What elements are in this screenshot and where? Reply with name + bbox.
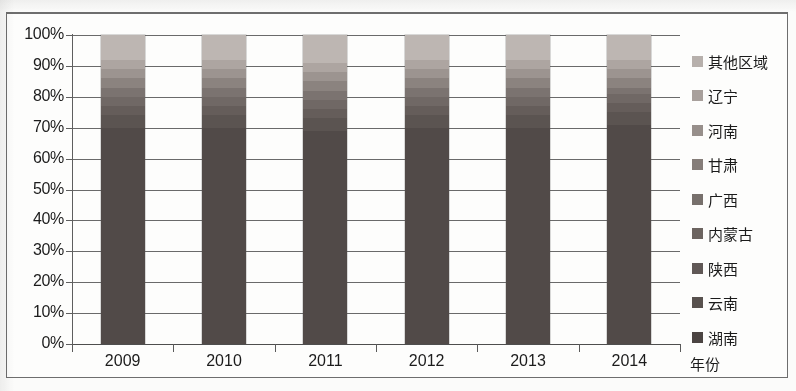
gridline xyxy=(72,128,680,129)
chart-screenshot: 0%10%20%30%40%50%60%70%80%90%100% 年份 其他区… xyxy=(0,0,796,391)
bar-segment xyxy=(202,128,246,344)
bar-segment xyxy=(607,69,651,78)
bar-segment xyxy=(405,97,449,106)
plot-area xyxy=(72,35,680,344)
bar-segment xyxy=(303,72,347,81)
legend-item-label: 陕西 xyxy=(708,258,738,279)
gridline xyxy=(72,282,680,283)
bar-segment xyxy=(607,125,651,344)
x-axis-tick-label: 2010 xyxy=(184,352,264,370)
bar-segment xyxy=(506,35,550,60)
y-axis-tick-label: 20% xyxy=(2,272,64,290)
y-axis-tick xyxy=(66,251,73,252)
y-axis-tick xyxy=(66,190,73,191)
bar-2013 xyxy=(506,35,550,344)
bar-segment xyxy=(303,91,347,100)
bar-segment xyxy=(202,60,246,69)
legend-swatch-icon xyxy=(692,194,703,205)
bar-2014 xyxy=(607,35,651,344)
y-axis-tick-label: 30% xyxy=(2,241,64,259)
x-axis-title: 年份 xyxy=(690,353,720,374)
bar-segment xyxy=(405,78,449,87)
gridline xyxy=(72,66,680,67)
bar-segment xyxy=(506,60,550,69)
bar-segment xyxy=(202,97,246,106)
y-axis-tick xyxy=(66,159,73,160)
bar-segment xyxy=(506,115,550,127)
chart-legend: 其他区域辽宁河南甘肃广西内蒙古陕西云南湖南 xyxy=(692,44,796,355)
legend-swatch-icon xyxy=(692,297,703,308)
bar-segment xyxy=(607,78,651,87)
legend-swatch-icon xyxy=(692,332,703,343)
bar-segment xyxy=(101,78,145,87)
bar-segment xyxy=(101,128,145,344)
bar-segment xyxy=(405,115,449,127)
legend-item-label: 湖南 xyxy=(708,327,738,348)
x-axis-tick xyxy=(477,344,478,352)
legend-item-label: 河南 xyxy=(708,120,738,141)
bar-segment xyxy=(506,106,550,115)
y-axis-tick xyxy=(66,66,73,67)
legend-item: 湖南 xyxy=(692,320,796,355)
legend-swatch-icon xyxy=(692,125,703,136)
y-axis-tick-label: 70% xyxy=(2,118,64,136)
x-axis-tick xyxy=(72,344,73,352)
legend-item: 辽宁 xyxy=(692,79,796,114)
legend-item: 甘肃 xyxy=(692,148,796,183)
legend-item: 内蒙古 xyxy=(692,217,796,252)
bar-segment xyxy=(101,97,145,106)
legend-item-label: 广西 xyxy=(708,189,738,210)
bar-segment xyxy=(405,60,449,69)
y-axis-tick xyxy=(66,313,73,314)
gridline xyxy=(72,35,680,36)
legend-item-label: 云南 xyxy=(708,292,738,313)
bar-segment xyxy=(405,69,449,78)
y-axis-tick-label: 40% xyxy=(2,210,64,228)
legend-item-label: 辽宁 xyxy=(708,85,738,106)
gridline xyxy=(72,251,680,252)
y-axis-labels: 0%10%20%30%40%50%60%70%80%90%100% xyxy=(0,0,64,391)
bar-segment xyxy=(303,100,347,109)
bar-segment xyxy=(101,60,145,69)
bar-2012 xyxy=(405,35,449,344)
bar-segment xyxy=(101,35,145,60)
y-axis-tick-label: 90% xyxy=(2,56,64,74)
bar-segment xyxy=(607,60,651,69)
bar-segment xyxy=(506,78,550,87)
bar-segment xyxy=(303,109,347,118)
y-axis-tick-label: 0% xyxy=(2,334,64,352)
bar-segment xyxy=(405,128,449,344)
gridline xyxy=(72,220,680,221)
bar-segment xyxy=(101,69,145,78)
bar-2011 xyxy=(303,35,347,344)
bar-segment xyxy=(607,35,651,60)
legend-item: 陕西 xyxy=(692,251,796,286)
x-axis-tick-label: 2013 xyxy=(488,352,568,370)
bar-2009 xyxy=(101,35,145,344)
legend-item-label: 其他区域 xyxy=(708,51,768,72)
legend-swatch-icon xyxy=(692,90,703,101)
bar-segment xyxy=(303,131,347,344)
legend-item-label: 内蒙古 xyxy=(708,223,753,244)
legend-item-label: 甘肃 xyxy=(708,154,738,175)
y-axis-tick-label: 10% xyxy=(2,303,64,321)
y-axis-tick xyxy=(66,128,73,129)
bar-segment xyxy=(101,106,145,115)
legend-swatch-icon xyxy=(692,56,703,67)
bar-segment xyxy=(202,88,246,97)
y-axis-tick xyxy=(66,282,73,283)
bar-segment xyxy=(405,35,449,60)
bar-segment xyxy=(506,69,550,78)
bar-segment xyxy=(506,128,550,344)
legend-swatch-icon xyxy=(692,159,703,170)
bar-segment xyxy=(101,115,145,127)
y-axis-tick xyxy=(66,220,73,221)
bar-segment xyxy=(202,78,246,87)
gridline xyxy=(72,97,680,98)
bar-segment xyxy=(202,115,246,127)
bar-segment xyxy=(101,88,145,97)
x-axis-tick-label: 2011 xyxy=(285,352,365,370)
legend-item: 河南 xyxy=(692,113,796,148)
y-axis-tick xyxy=(66,97,73,98)
x-axis-tick xyxy=(376,344,377,352)
